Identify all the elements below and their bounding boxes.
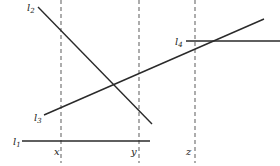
line-l2 xyxy=(38,7,152,124)
lines-diagram: l1 l2 l3 l4 x y z xyxy=(0,0,280,166)
line-l3 xyxy=(44,19,264,115)
label-y: y xyxy=(130,146,137,157)
label-z: z xyxy=(185,146,192,157)
label-l3: l3 xyxy=(34,112,42,125)
label-l1: l1 xyxy=(13,136,21,149)
label-x: x xyxy=(54,146,60,157)
label-l2: l2 xyxy=(27,2,35,15)
label-l4: l4 xyxy=(175,36,183,49)
